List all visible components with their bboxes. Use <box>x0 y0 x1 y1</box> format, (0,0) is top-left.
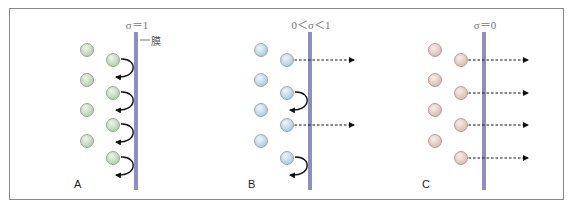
solute-particle <box>455 152 468 165</box>
sigma-label-c: σ＝0 <box>474 16 496 32</box>
sigma-label-b: 0＜σ＜1 <box>292 16 331 32</box>
panel-c <box>429 32 529 190</box>
panel-label-c: C <box>422 178 430 190</box>
membrane <box>308 32 312 190</box>
solute-particle <box>281 87 294 100</box>
membrane <box>134 32 138 190</box>
solute-particle <box>429 74 442 87</box>
panel-label-a: A <box>74 178 81 190</box>
solute-particle <box>81 104 94 117</box>
solute-particle <box>255 74 268 87</box>
membrane <box>482 32 486 190</box>
solute-particle <box>429 135 442 148</box>
solute-particle <box>455 87 468 100</box>
solute-particle <box>455 119 468 132</box>
solute-particle <box>81 74 94 87</box>
solute-particle <box>255 44 268 57</box>
panel-b <box>255 32 355 190</box>
solute-particle <box>429 44 442 57</box>
solute-particle <box>107 54 120 67</box>
solute-particle <box>81 44 94 57</box>
solute-particle <box>281 152 294 165</box>
sigma-label-a: σ＝1 <box>126 16 148 32</box>
solute-particle <box>107 152 120 165</box>
solute-particle <box>429 104 442 117</box>
solute-particle <box>281 119 294 132</box>
solute-particle <box>255 135 268 148</box>
solute-particle <box>281 54 294 67</box>
solute-particle <box>107 119 120 132</box>
panel-label-b: B <box>248 178 255 190</box>
solute-particle <box>255 104 268 117</box>
panel-a <box>81 32 139 190</box>
solute-particle <box>107 87 120 100</box>
solute-particle <box>81 135 94 148</box>
membrane-label: 膜 <box>151 33 161 48</box>
solute-particle <box>455 54 468 67</box>
